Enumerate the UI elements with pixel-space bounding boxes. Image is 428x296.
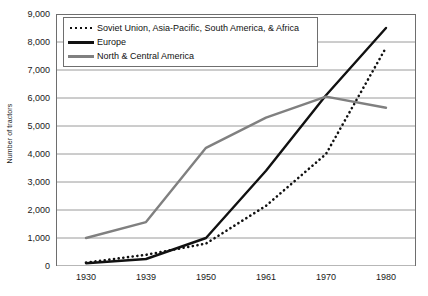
solid-gray-line-swatch-icon bbox=[68, 51, 94, 61]
y-axis-tick-label: 1,000 bbox=[4, 233, 50, 243]
y-axis-tick-label: 9,000 bbox=[4, 9, 50, 19]
x-axis-tick-label: 1930 bbox=[76, 272, 96, 282]
x-axis-tick-label: 1950 bbox=[196, 272, 216, 282]
legend-label: Europe bbox=[97, 37, 126, 47]
series-line bbox=[86, 97, 386, 238]
legend-label: Soviet Union, Asia-Pacific, South Americ… bbox=[97, 23, 299, 33]
y-axis-tick-label: 8,000 bbox=[4, 37, 50, 47]
y-axis-tick-label: 2,000 bbox=[4, 205, 50, 215]
y-axis-tick-label: 0 bbox=[4, 261, 50, 271]
x-axis-tick-label: 1939 bbox=[136, 272, 156, 282]
y-axis-tick-label: 4,000 bbox=[4, 149, 50, 159]
x-axis-tick-label: 1961 bbox=[256, 272, 276, 282]
x-axis-tick-label: 1980 bbox=[376, 272, 396, 282]
y-axis-tick-label: 5,000 bbox=[4, 121, 50, 131]
chart-legend: Soviet Union, Asia-Pacific, South Americ… bbox=[63, 17, 318, 67]
legend-item-north-central-america: North & Central America bbox=[68, 49, 312, 63]
y-axis-tick-label: 7,000 bbox=[4, 65, 50, 75]
legend-item-soviet-union-asia-pacific-south-america-africa: Soviet Union, Asia-Pacific, South Americ… bbox=[68, 21, 312, 35]
legend-label: North & Central America bbox=[97, 51, 194, 61]
y-axis-tick-label: 6,000 bbox=[4, 93, 50, 103]
tractor-line-chart: Number of tractors 01,0002,0003,0004,000… bbox=[0, 0, 428, 296]
y-axis-tick-label: 3,000 bbox=[4, 177, 50, 187]
legend-item-europe: Europe bbox=[68, 35, 312, 49]
dotted-line-swatch-icon bbox=[68, 23, 94, 33]
x-axis-tick-label: 1970 bbox=[316, 272, 336, 282]
solid-black-line-swatch-icon bbox=[68, 37, 94, 47]
